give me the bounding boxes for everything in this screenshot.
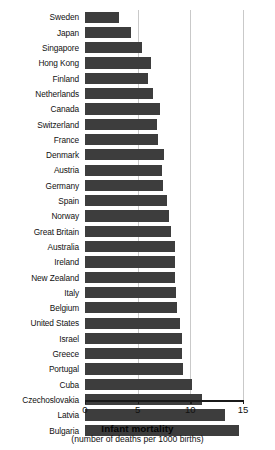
category-label: Finland: [0, 75, 82, 83]
bar: [85, 57, 151, 68]
bar-row: Spain: [0, 194, 275, 209]
category-label: Portugal: [0, 365, 82, 373]
category-label: Canada: [0, 105, 82, 113]
bar: [85, 134, 158, 145]
bar-row: Canada: [0, 102, 275, 117]
category-label: Italy: [0, 289, 82, 297]
bar: [85, 73, 148, 84]
bar: [85, 103, 160, 114]
bar: [85, 333, 182, 344]
bar-row: Germany: [0, 178, 275, 193]
category-label: France: [0, 136, 82, 144]
bar: [85, 226, 171, 237]
bar: [85, 287, 176, 298]
bar-row: Belgium: [0, 301, 275, 316]
bar: [85, 149, 164, 160]
bar: [85, 272, 175, 283]
plot-area: SwedenJapanSingaporeHong KongFinlandNeth…: [0, 0, 275, 400]
bar: [85, 256, 175, 267]
bar-track: [85, 134, 275, 145]
bar-row: United States: [0, 316, 275, 331]
category-label: Norway: [0, 212, 82, 220]
category-label: Germany: [0, 182, 82, 190]
bar-row: Great Britain: [0, 224, 275, 239]
category-label: Cuba: [0, 381, 82, 389]
bar-row: Norway: [0, 209, 275, 224]
tick-label-15: 15: [238, 405, 249, 415]
bar-track: [85, 180, 275, 191]
bar: [85, 241, 175, 252]
bar-row: New Zealand: [0, 270, 275, 285]
category-label: Denmark: [0, 151, 82, 159]
bar-row: Sweden: [0, 10, 275, 25]
category-label: Israel: [0, 335, 82, 343]
tick-label-5: 5: [135, 405, 140, 415]
bar-track: [85, 27, 275, 38]
category-label: United States: [0, 319, 82, 327]
bar-row: Greece: [0, 347, 275, 362]
bar-row: Israel: [0, 331, 275, 346]
bar-track: [85, 272, 275, 283]
tick-label-10: 10: [185, 405, 196, 415]
bar-track: [85, 348, 275, 359]
bar: [85, 318, 180, 329]
bar: [85, 195, 167, 206]
infant-mortality-bar-chart: SwedenJapanSingaporeHong KongFinlandNeth…: [0, 0, 275, 450]
bar-track: [85, 42, 275, 53]
bar-rows: SwedenJapanSingaporeHong KongFinlandNeth…: [0, 10, 275, 438]
category-label: Belgium: [0, 304, 82, 312]
bar: [85, 27, 131, 38]
category-label: Japan: [0, 29, 82, 37]
category-label: Spain: [0, 197, 82, 205]
category-label: Netherlands: [0, 90, 82, 98]
bar: [85, 165, 162, 176]
bar-track: [85, 73, 275, 84]
bar-track: [85, 103, 275, 114]
bar-track: [85, 165, 275, 176]
category-label: Australia: [0, 243, 82, 251]
category-label: Greece: [0, 350, 82, 358]
category-label: Hong Kong: [0, 59, 82, 67]
bar-track: [85, 302, 275, 313]
bar-row: Switzerland: [0, 117, 275, 132]
bar-row: Austria: [0, 163, 275, 178]
bar-track: [85, 363, 275, 374]
bar-track: [85, 57, 275, 68]
bar: [85, 42, 142, 53]
bar-track: [85, 210, 275, 221]
bar-track: [85, 226, 275, 237]
bar: [85, 119, 157, 130]
bar: [85, 12, 119, 23]
bar: [85, 348, 182, 359]
bar-track: [85, 195, 275, 206]
bar-track: [85, 241, 275, 252]
category-label: New Zealand: [0, 274, 82, 282]
bar-row: Singapore: [0, 41, 275, 56]
bar: [85, 363, 183, 374]
bar-row: Japan: [0, 25, 275, 40]
bar-track: [85, 287, 275, 298]
bar-track: [85, 379, 275, 390]
bar: [85, 180, 163, 191]
bar-row: Italy: [0, 285, 275, 300]
bar-row: Denmark: [0, 148, 275, 163]
category-label: Sweden: [0, 13, 82, 21]
bar-track: [85, 88, 275, 99]
bar-track: [85, 333, 275, 344]
bar-row: Hong Kong: [0, 56, 275, 71]
tick-label-0: 0: [82, 405, 87, 415]
bar: [85, 302, 177, 313]
bar: [85, 210, 169, 221]
bar-row: France: [0, 132, 275, 147]
bar-track: [85, 256, 275, 267]
category-label: Austria: [0, 166, 82, 174]
bar-track: [85, 119, 275, 130]
bar-row: Cuba: [0, 377, 275, 392]
category-label: Singapore: [0, 44, 82, 52]
bar: [85, 88, 153, 99]
bar-row: Ireland: [0, 255, 275, 270]
x-axis-ticks: 051015: [0, 400, 275, 422]
category-label: Ireland: [0, 258, 82, 266]
bar-row: Australia: [0, 239, 275, 254]
category-label: Great Britain: [0, 228, 82, 236]
